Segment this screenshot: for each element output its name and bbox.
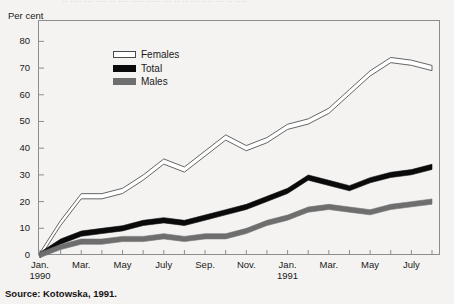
legend-swatch-total <box>113 65 136 72</box>
y-tick-label: 40 <box>6 142 30 153</box>
y-tick-label: 50 <box>6 115 30 126</box>
legend-label: Males <box>141 75 168 89</box>
legend-label: Total <box>141 62 162 76</box>
y-tick-marks <box>38 41 44 255</box>
x-tick-label: May <box>101 259 145 270</box>
x-tick-label: July <box>142 259 186 270</box>
source-note: Source: Kotowska, 1991. <box>5 288 117 299</box>
legend-swatch-females <box>113 51 136 58</box>
x-tick-label: July <box>389 259 433 270</box>
legend-swatch-males <box>113 78 136 85</box>
y-tick-label: 10 <box>6 222 30 233</box>
legend-label: Females <box>141 48 179 62</box>
y-tick-label: 30 <box>6 169 30 180</box>
y-tick-label: 20 <box>6 196 30 207</box>
x-tick-label: Jan.1990 <box>18 259 62 281</box>
chart-legend: FemalesTotalMales <box>113 48 179 89</box>
series-group <box>40 57 432 257</box>
x-tick-label: Mar. <box>307 259 351 270</box>
y-tick-label: 60 <box>6 89 30 100</box>
legend-item-females: Females <box>113 48 179 62</box>
x-tick-label: Mar. <box>59 259 103 270</box>
x-tick-marks <box>40 250 432 255</box>
y-tick-label: 70 <box>6 62 30 73</box>
x-tick-label: May <box>348 259 392 270</box>
legend-item-total: Total <box>113 62 179 76</box>
x-tick-label: Sep. <box>183 259 227 270</box>
x-tick-label: Jan.1991 <box>266 259 310 281</box>
series-band-females <box>40 57 432 257</box>
legend-item-males: Males <box>113 75 179 89</box>
x-tick-label: Nov. <box>224 259 268 270</box>
y-tick-label: 80 <box>6 35 30 46</box>
